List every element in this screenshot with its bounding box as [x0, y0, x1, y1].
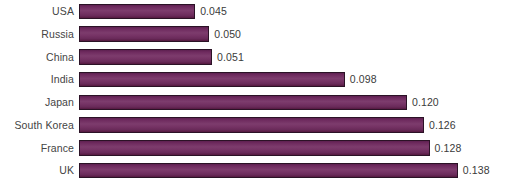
- value-label: 0.120: [412, 97, 439, 108]
- value-label: 0.051: [217, 52, 244, 63]
- bar-row: India 0.098: [0, 68, 507, 91]
- category-label: India: [0, 74, 74, 85]
- bar[interactable]: [79, 117, 424, 133]
- value-label: 0.098: [350, 74, 377, 85]
- value-label: 0.050: [214, 29, 241, 40]
- category-label: China: [0, 52, 74, 63]
- value-label: 0.045: [200, 6, 227, 17]
- category-label: USA: [0, 6, 74, 17]
- bar-row: Russia 0.050: [0, 23, 507, 46]
- category-label: Russia: [0, 29, 74, 40]
- bar[interactable]: [79, 49, 212, 65]
- bar-row: USA 0.045: [0, 0, 507, 23]
- bar-row: Japan 0.120: [0, 91, 507, 114]
- category-label: Japan: [0, 97, 74, 108]
- category-label: South Korea: [0, 120, 74, 131]
- bar-chart: USA 0.045 Russia 0.050 China 0.051 India: [0, 0, 507, 182]
- bar-row: China 0.051: [0, 46, 507, 69]
- bar-row: South Korea 0.126: [0, 114, 507, 137]
- bar[interactable]: [79, 4, 195, 20]
- bar-row: UK 0.138: [0, 159, 507, 182]
- bar[interactable]: [79, 140, 430, 156]
- bar[interactable]: [79, 163, 458, 179]
- category-label: UK: [0, 165, 74, 176]
- bar[interactable]: [79, 26, 209, 42]
- value-label: 0.128: [435, 143, 462, 154]
- bar[interactable]: [79, 72, 345, 88]
- bar-row: France 0.128: [0, 137, 507, 160]
- category-label: France: [0, 143, 74, 154]
- value-label: 0.126: [429, 120, 456, 131]
- plot-area: USA 0.045 Russia 0.050 China 0.051 India: [0, 0, 507, 182]
- value-label: 0.138: [463, 165, 490, 176]
- bar[interactable]: [79, 95, 407, 111]
